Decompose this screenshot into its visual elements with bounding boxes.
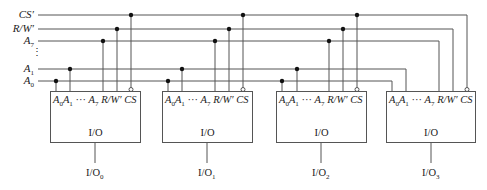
memory-chip-3: A0A1 ··· A7 R/W′ CS I/O [386,91,476,143]
a1-bus-line [38,69,406,91]
chip-io-label: I/O [163,127,252,138]
junction-dot [355,13,359,17]
chip-io-label: I/O [277,127,366,138]
chip-io-label: I/O [51,127,140,138]
memory-chip-1: A0A1 ··· A7 R/W′ CS I/O [162,91,253,143]
rw-bus-line [38,29,453,91]
cs-signal-label: CS′ [0,9,34,20]
junction-dot [280,79,284,83]
memory-chip-0: A0A1 ··· A7 R/W′ CS I/O [50,91,141,143]
a0-signal-label: A0 [0,75,34,91]
junction-dot [180,67,184,71]
junction-dot [54,79,58,83]
junction-dot [129,13,133,17]
junction-dot [213,39,217,43]
cs-bus-line [38,15,467,88]
junction-dot [295,67,299,71]
chip-io-label: I/O [387,127,475,138]
io-output-label-1: I/O1 [198,167,216,181]
memory-chip-2: A0A1 ··· A7 R/W′ CS I/O [276,91,367,143]
ellipsis-vertical: ⋮ [32,50,42,54]
io-output-label-0: I/O0 [86,167,104,181]
junction-dot [166,79,170,83]
chip-pin-labels: A0A1 ··· A7 R/W′ CS [279,94,362,108]
a7-bus-line [38,41,439,91]
junction-dot [341,27,345,31]
chip-pin-labels: A0A1 ··· A7 R/W′ CS [389,94,472,108]
rw-signal-label: R/W′ [0,23,34,34]
junction-dot [327,39,331,43]
io-output-label-2: I/O2 [312,167,330,181]
io-output-label-3: I/O3 [422,167,440,181]
junction-dot [115,27,119,31]
junction-dot [68,67,72,71]
junction-dot [101,39,105,43]
junction-dot [241,13,245,17]
chip-pin-labels: A0A1 ··· A7 R/W′ CS [53,94,136,108]
junction-dot [227,27,231,31]
a7-signal-label: A7 [0,35,34,51]
chip-pin-labels: A0A1 ··· A7 R/W′ CS [165,94,248,108]
